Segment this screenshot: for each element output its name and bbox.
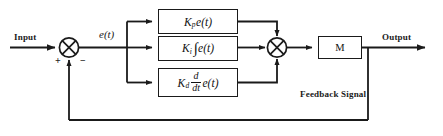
- integral-term-block: Ki∫e(t): [158, 36, 238, 61]
- derivative-numerator: d: [193, 71, 200, 82]
- derivative-denominator: dt: [191, 83, 201, 94]
- output-label: Output: [382, 33, 411, 42]
- derivative-signal: e(t): [203, 77, 219, 89]
- proportional-term-formula: Kpe(t): [184, 16, 212, 28]
- derivative-term-block: Kdddte(t): [158, 68, 238, 97]
- derivative-term-formula: Kdddte(t): [178, 72, 219, 94]
- pid-block-diagram: Kpe(t) Ki∫e(t) Kdddte(t) M Input Output …: [0, 0, 443, 136]
- wire-derivative-out: [238, 59, 277, 83]
- proportional-term-block: Kpe(t): [158, 9, 238, 34]
- proportional-gain-symbol: K: [184, 16, 192, 28]
- integral-gain-symbol: K: [182, 42, 190, 54]
- proportional-gain-subscript: p: [192, 20, 196, 29]
- summing-junction-plus-sign: +: [55, 56, 61, 66]
- integral-gain-subscript: i: [190, 47, 192, 56]
- wire-proportional-out: [238, 22, 277, 37]
- feedback-signal-label: Feedback Signal: [300, 90, 366, 99]
- derivative-gain-subscript: d: [185, 81, 189, 90]
- integral-sign-icon: ∫: [193, 40, 197, 57]
- plant-label: M: [335, 42, 344, 53]
- integral-signal: e(t): [198, 42, 214, 54]
- derivative-operator-fraction: ddt: [191, 71, 201, 93]
- plant-block: M: [318, 36, 362, 59]
- proportional-signal: e(t): [196, 16, 212, 28]
- summing-junction-minus-sign: −: [80, 56, 86, 66]
- error-signal-label: e(t): [99, 29, 114, 40]
- integral-term-formula: Ki∫e(t): [182, 40, 214, 57]
- input-label: Input: [14, 33, 37, 42]
- derivative-gain-symbol: K: [178, 77, 186, 89]
